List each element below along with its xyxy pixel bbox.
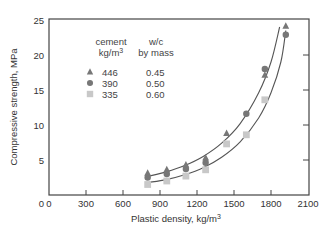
x-tick-label: 900 [152, 198, 168, 209]
plot-frame [49, 19, 309, 195]
triangle-marker [223, 129, 230, 136]
y-tick-label: 20 [33, 50, 44, 61]
triangle-marker [144, 169, 151, 176]
legend: cement kg/m3 w/c by mass 4460.453900.503… [87, 36, 174, 100]
circle-marker [262, 66, 268, 72]
circle-marker [283, 31, 289, 37]
square-marker [144, 181, 151, 188]
legend-wc-value: 0.50 [146, 78, 165, 89]
legend-wc-value: 0.60 [146, 89, 165, 100]
y-tick-label: 15 [33, 85, 44, 96]
legend-wc-value: 0.45 [146, 67, 165, 78]
circle-marker [202, 160, 208, 166]
triangle-marker [202, 154, 209, 161]
circle-marker [243, 111, 249, 117]
right-axis-ticks [303, 55, 309, 160]
legend-wc-header: w/c [148, 36, 164, 47]
y-axis: 5101520250 [33, 15, 44, 210]
y-tick-label: 25 [33, 15, 44, 26]
y-axis-label: Compressive strength, MPa [8, 48, 19, 166]
legend-wc-subheader: by mass [138, 47, 174, 58]
square-marker [183, 173, 190, 180]
triangle-marker [163, 166, 170, 173]
legend-cement-value: 390 [102, 78, 118, 89]
x-axis-label: Plastic density, kg/m3 [131, 213, 221, 224]
square-marker [261, 96, 268, 103]
square-marker [223, 141, 230, 148]
x-tick-label: 1200 [186, 198, 207, 209]
legend-cement-header: cement [95, 36, 127, 47]
x-tick-label: 600 [115, 198, 131, 209]
chart: 03006009001200150018002100 5101520250 Co… [0, 0, 334, 238]
circle-marker [87, 80, 93, 86]
y-tick-label-zero: 0 [39, 198, 44, 209]
x-tick-label: 1800 [260, 198, 281, 209]
square-marker [87, 91, 93, 97]
x-tick-label: 1500 [223, 198, 244, 209]
y-tick-label: 10 [33, 120, 44, 131]
triangle-marker [282, 22, 289, 29]
x-tick-label: 300 [78, 198, 94, 209]
square-marker [202, 166, 209, 173]
legend-cement-value: 335 [102, 89, 118, 100]
x-axis: 03006009001200150018002100 [46, 190, 318, 209]
legend-cement-unit: kg/m3 [99, 47, 124, 58]
y-tick-label: 5 [39, 155, 44, 166]
triangle-marker [87, 68, 93, 74]
x-tick-label: 2100 [297, 198, 318, 209]
x-tick-label: 0 [46, 198, 51, 209]
square-marker [163, 178, 170, 185]
square-marker [243, 131, 250, 138]
legend-cement-value: 446 [102, 67, 118, 78]
